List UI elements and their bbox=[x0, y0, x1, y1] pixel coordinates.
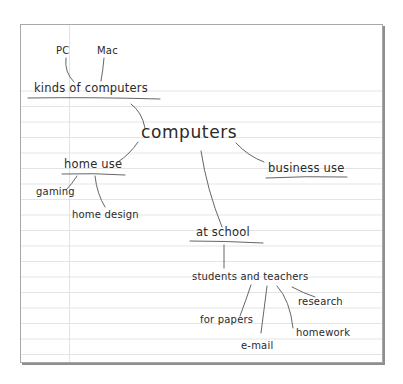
connector-homework bbox=[277, 286, 293, 328]
underline-home-use bbox=[62, 174, 125, 175]
node-mac: Mac bbox=[97, 45, 118, 56]
node-email: e-mail bbox=[241, 340, 273, 351]
connector-email bbox=[261, 286, 267, 333]
connector-mac bbox=[101, 58, 104, 81]
node-gaming: gaming bbox=[36, 186, 75, 197]
underline-school bbox=[190, 241, 263, 243]
node-kinds-of-computers: kinds of computers bbox=[34, 81, 148, 95]
connector-home-design bbox=[95, 176, 105, 207]
node-pc: PC bbox=[56, 45, 69, 56]
node-students-and-teachers: students and teachers bbox=[192, 271, 308, 282]
node-for-papers: for papers bbox=[200, 314, 253, 325]
connector-computers-school bbox=[201, 151, 222, 227]
underline-business bbox=[266, 177, 347, 178]
connector-for-papers bbox=[240, 285, 251, 316]
node-home-use: home use bbox=[64, 157, 122, 171]
underline-kinds bbox=[28, 98, 160, 99]
connector-pc bbox=[66, 58, 74, 82]
node-research: research bbox=[298, 296, 343, 307]
node-homework: homework bbox=[296, 327, 350, 338]
connector-computers-business bbox=[236, 143, 264, 162]
node-home-design: home design bbox=[72, 209, 139, 220]
node-business-use: business use bbox=[268, 161, 345, 175]
node-at-school: at school bbox=[196, 225, 250, 239]
node-central-computers: computers bbox=[141, 122, 237, 142]
